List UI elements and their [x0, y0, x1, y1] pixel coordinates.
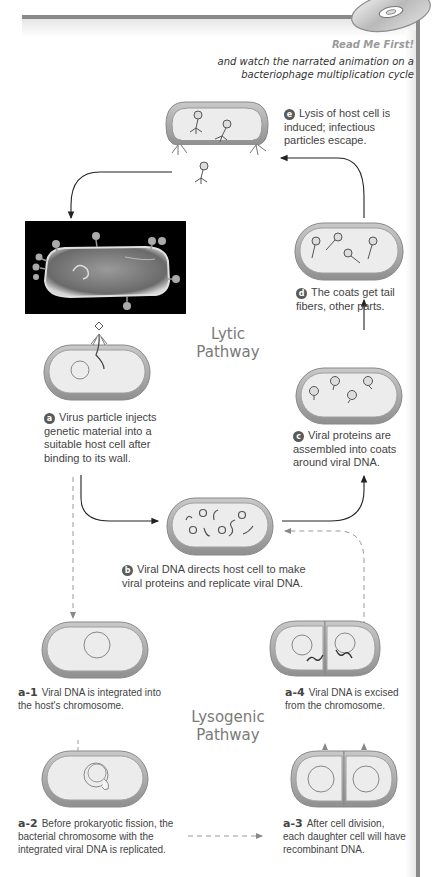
lytic-pathway-label: Lytic Pathway: [188, 325, 268, 361]
caption-step-d: dThe coats get tail fibers, other parts.: [296, 286, 406, 313]
caption-step-a1: a-1Viral DNA is integrated into the host…: [18, 686, 168, 712]
arrow-e-to-micrograph: [71, 172, 172, 218]
cell-replication: [167, 498, 273, 555]
badge-b-icon: b: [122, 565, 133, 576]
badge-e-icon: e: [284, 109, 295, 120]
caption-step-e: eLysis of host cell is induced; infectio…: [284, 107, 394, 148]
caption-step-a2: a-2Before prokaryotic fission, the bacte…: [18, 817, 188, 856]
step-c-text: Viral proteins are assembled into coats …: [293, 429, 396, 468]
badge-c-icon: c: [293, 431, 304, 442]
cell-excised: [270, 621, 380, 676]
step-a3-label: a-3: [283, 817, 303, 830]
cell-integrated: [42, 622, 148, 678]
step-a2-text: Before prokaryotic fission, the bacteria…: [18, 818, 173, 855]
step-e-text: Lysis of host cell is induced; infectiou…: [284, 107, 390, 146]
arrow-b-to-c: [282, 476, 364, 521]
step-b-text: Viral DNA directs host cell to make vira…: [122, 563, 306, 589]
cell-lysis: [166, 102, 268, 184]
cell-replicating-chromosome: [42, 751, 148, 807]
phage-infected-bacterium-micrograph: [25, 221, 186, 314]
badge-a-icon: a: [44, 413, 55, 424]
lytic-label-line2: Pathway: [188, 343, 268, 361]
lysogenic-label-line2: Pathway: [178, 726, 278, 744]
lytic-label-line1: Lytic: [188, 325, 268, 343]
step-a1-label: a-1: [18, 686, 38, 699]
step-a1-text: Viral DNA is integrated into the host's …: [18, 687, 161, 711]
cell-tail-fibers: [295, 223, 403, 280]
lysogenic-label-line1: Lysogenic: [178, 708, 278, 726]
badge-d-icon: d: [296, 288, 307, 299]
caption-step-a3: a-3After cell division, each daughter ce…: [283, 817, 408, 856]
step-a-text: Virus particle injects genetic material …: [44, 411, 157, 464]
caption-step-a4: a-4Viral DNA is excised from the chromos…: [285, 686, 410, 712]
lysogenic-pathway-label: Lysogenic Pathway: [178, 708, 278, 744]
cell-injection: [44, 322, 150, 400]
step-a2-label: a-2: [18, 817, 38, 830]
arrow-a-to-b: [81, 475, 158, 521]
cell-daughters: [291, 751, 397, 807]
cell-coat-assembly: [296, 368, 402, 424]
arrow-d-to-e: [281, 158, 364, 218]
caption-step-a: aVirus particle injects genetic material…: [44, 411, 166, 465]
caption-step-c: cViral proteins are assembled into coats…: [293, 429, 405, 470]
micrograph-image: [25, 221, 186, 314]
step-d-text: The coats get tail fibers, other parts.: [296, 286, 395, 312]
caption-step-b: bViral DNA directs host cell to make vir…: [122, 563, 312, 590]
step-a4-label: a-4: [285, 686, 305, 699]
